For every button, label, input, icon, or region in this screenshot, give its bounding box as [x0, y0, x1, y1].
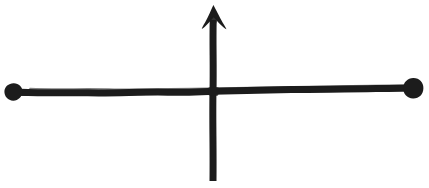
- arrow-head-joint: [210, 17, 217, 25]
- vertical-arrow-shaft-texture: [213, 24, 214, 180]
- sketch-canvas: [0, 0, 429, 188]
- sketch-drawing: [0, 0, 429, 188]
- right-endpoint-dot: [403, 78, 423, 98]
- intersection-point: [208, 87, 219, 96]
